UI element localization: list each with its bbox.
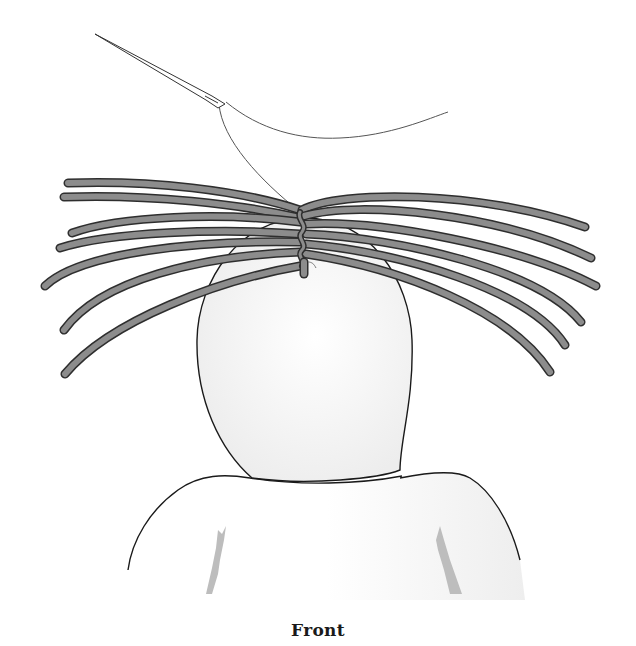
thread — [226, 102, 448, 138]
shoulders — [128, 473, 525, 600]
illustration-canvas: Front — [0, 0, 636, 646]
hair-sewing-illustration — [0, 0, 636, 646]
needle — [95, 34, 225, 108]
figure-caption: Front — [0, 620, 636, 640]
